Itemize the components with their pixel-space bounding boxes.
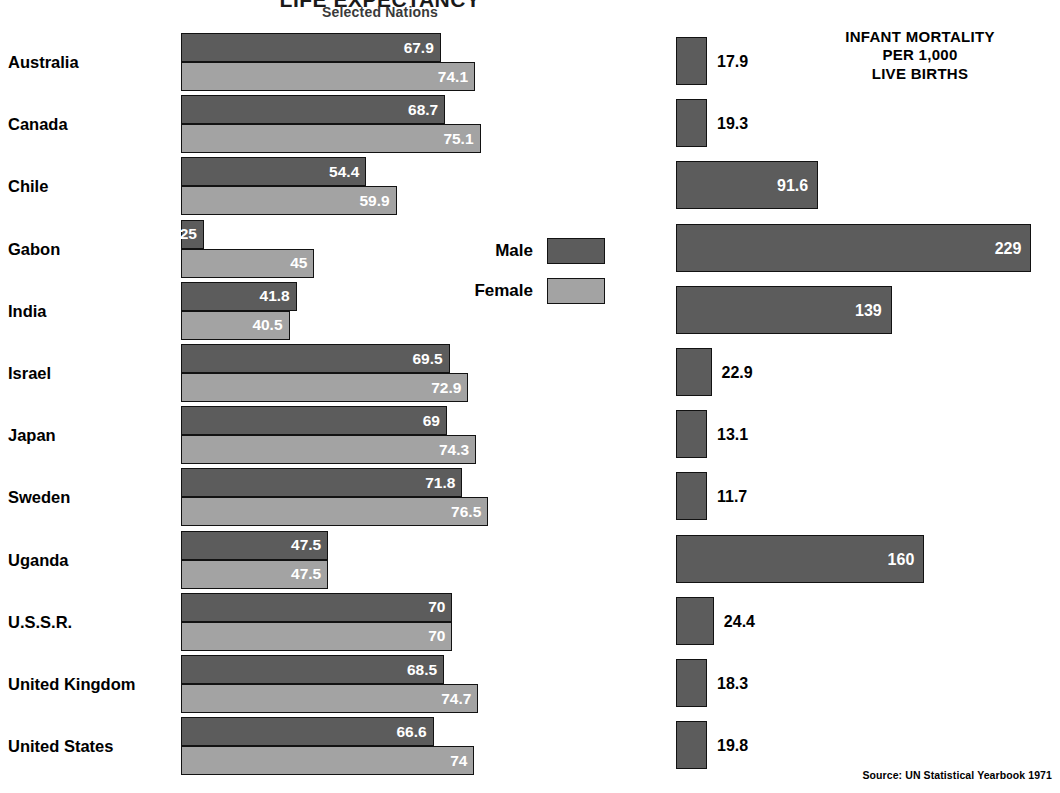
- bar-value-female: 45: [290, 254, 307, 272]
- country-label: Australia: [8, 53, 79, 72]
- bar-value-male: 25: [180, 225, 197, 243]
- chart-row: Sweden71.876.511.7: [0, 468, 1060, 526]
- legend-item-male: Male: [455, 238, 605, 268]
- bar-value-female: 47.5: [291, 565, 321, 583]
- bar-male: 67.9: [181, 33, 441, 62]
- bar-value-female: 74.1: [438, 68, 468, 86]
- bar-value-female: 40.5: [252, 316, 282, 334]
- bar-infant-mortality: [676, 410, 707, 458]
- bar-female: 74.1: [181, 62, 475, 91]
- legend-swatch-male: [547, 238, 605, 264]
- chart-legend: Male Female: [455, 238, 605, 318]
- chart-row: Australia67.974.117.9: [0, 33, 1060, 91]
- bar-value-male: 67.9: [404, 39, 434, 57]
- bar-female: 74: [181, 746, 474, 775]
- bar-value-infant-mortality: 11.7: [717, 488, 747, 506]
- bar-male: 71.8: [181, 468, 462, 497]
- bar-value-male: 66.6: [396, 723, 426, 741]
- legend-label-male: Male: [495, 241, 533, 261]
- country-label: India: [8, 302, 47, 321]
- bar-value-infant-mortality: 139: [855, 302, 882, 320]
- country-label: Uganda: [8, 551, 69, 570]
- legend-swatch-female: [547, 278, 605, 304]
- bar-value-male: 69: [423, 412, 440, 430]
- bar-male: 68.7: [181, 95, 445, 124]
- chart-row: Japan6974.313.1: [0, 406, 1060, 464]
- bar-value-male: 68.5: [407, 661, 437, 679]
- bar-value-female: 74.7: [441, 690, 471, 708]
- bar-value-female: 75.1: [443, 130, 473, 148]
- bar-male: 69.5: [181, 344, 450, 373]
- chart-row: Canada68.775.119.3: [0, 95, 1060, 153]
- bar-value-male: 69.5: [412, 350, 442, 368]
- bar-male: 41.8: [181, 282, 297, 311]
- bar-infant-mortality: [676, 472, 707, 520]
- bar-male: 68.5: [181, 655, 444, 684]
- bar-male: 70: [181, 593, 452, 622]
- chart-row: Uganda47.547.5160: [0, 531, 1060, 589]
- legend-item-female: Female: [455, 278, 605, 308]
- legend-label-female: Female: [474, 281, 533, 301]
- bar-value-female: 72.9: [431, 379, 461, 397]
- bar-value-infant-mortality: 17.9: [717, 53, 748, 71]
- bar-female: 40.5: [181, 311, 290, 340]
- bar-female: 47.5: [181, 560, 328, 589]
- bar-value-infant-mortality: 91.6: [777, 177, 808, 195]
- bar-value-infant-mortality: 19.8: [717, 737, 748, 755]
- bar-female: 72.9: [181, 373, 468, 402]
- bar-value-infant-mortality: 13.1: [717, 426, 748, 444]
- bar-male: 54.4: [181, 157, 366, 186]
- bar-value-infant-mortality: 160: [888, 551, 915, 569]
- chart-row: Chile54.459.991.6: [0, 157, 1060, 215]
- country-label: Israel: [8, 364, 51, 383]
- bar-female: 59.9: [181, 186, 397, 215]
- bar-value-male: 70: [428, 598, 445, 616]
- bar-value-infant-mortality: 24.4: [724, 613, 755, 631]
- country-label: United Kingdom: [8, 675, 135, 694]
- bar-value-infant-mortality: 229: [995, 240, 1022, 258]
- bar-value-female: 76.5: [451, 503, 481, 521]
- country-label: United States: [8, 737, 113, 756]
- bar-infant-mortality: [676, 224, 1031, 272]
- source-note: Source: UN Statistical Yearbook 1971: [862, 769, 1052, 781]
- chart-row: United States66.67419.8: [0, 717, 1060, 775]
- bar-value-female: 74: [450, 752, 467, 770]
- bar-infant-mortality: [676, 659, 707, 707]
- bar-male: 47.5: [181, 531, 328, 560]
- bar-male: 69: [181, 406, 447, 435]
- bar-female: 74.7: [181, 684, 478, 713]
- bar-female: 76.5: [181, 497, 488, 526]
- bar-value-infant-mortality: 22.9: [722, 364, 753, 382]
- bar-infant-mortality: [676, 597, 714, 645]
- bar-value-female: 74.3: [439, 441, 469, 459]
- bar-value-female: 59.9: [359, 192, 389, 210]
- bar-male: 66.6: [181, 717, 434, 746]
- country-label: Canada: [8, 115, 68, 134]
- bar-male: 25: [181, 220, 204, 249]
- bar-value-female: 70: [428, 627, 445, 645]
- bar-infant-mortality: [676, 348, 712, 396]
- country-label: Sweden: [8, 488, 70, 507]
- bar-value-male: 41.8: [260, 287, 290, 305]
- chart-row: U.S.S.R.707024.4: [0, 593, 1060, 651]
- chart-plot-area: Australia67.974.117.9Canada68.775.119.3C…: [0, 0, 1060, 793]
- bar-value-infant-mortality: 18.3: [717, 675, 748, 693]
- bar-infant-mortality: [676, 99, 707, 147]
- chart-row: Israel69.572.922.9: [0, 344, 1060, 402]
- bar-female: 75.1: [181, 124, 481, 153]
- bar-infant-mortality: [676, 37, 707, 85]
- bar-female: 45: [181, 249, 314, 278]
- country-label: Gabon: [8, 240, 60, 259]
- bar-value-male: 47.5: [291, 536, 321, 554]
- country-label: Japan: [8, 426, 56, 445]
- chart-row: United Kingdom68.574.718.3: [0, 655, 1060, 713]
- country-label: Chile: [8, 177, 48, 196]
- bar-value-male: 71.8: [425, 474, 455, 492]
- bar-infant-mortality: [676, 721, 707, 769]
- bar-value-male: 54.4: [329, 163, 359, 181]
- country-label: U.S.S.R.: [8, 613, 72, 632]
- bar-value-male: 68.7: [408, 101, 438, 119]
- bar-female: 70: [181, 622, 452, 651]
- bar-female: 74.3: [181, 435, 476, 464]
- bar-value-infant-mortality: 19.3: [717, 115, 748, 133]
